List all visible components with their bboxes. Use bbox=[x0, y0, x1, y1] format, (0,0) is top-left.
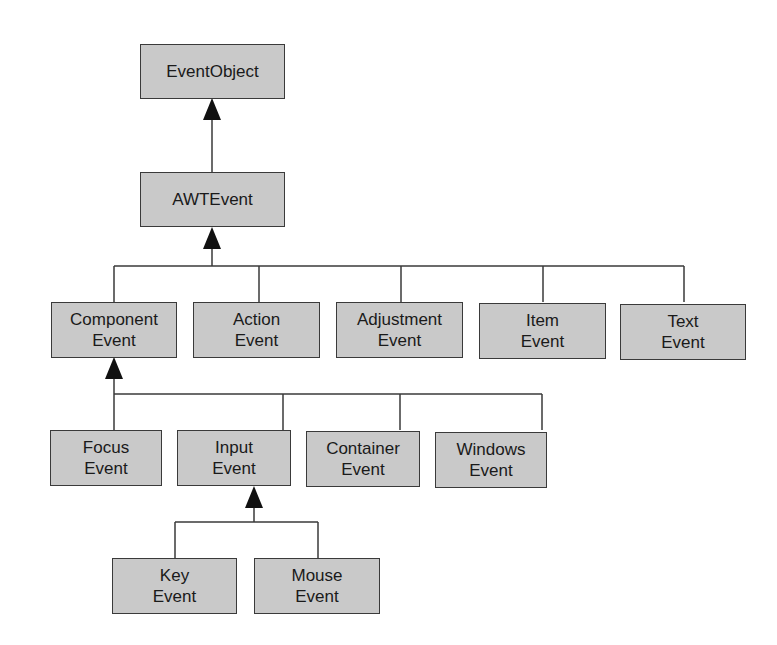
node-label-line1: Text bbox=[667, 311, 698, 332]
node-label-line2: Event bbox=[212, 458, 255, 479]
node-label-line1: Mouse bbox=[291, 565, 342, 586]
node-awt-event: AWTEvent bbox=[140, 172, 285, 227]
node-adjustment-event: Adjustment Event bbox=[336, 302, 463, 358]
node-label-line2: Event bbox=[295, 586, 338, 607]
node-label: AWTEvent bbox=[172, 189, 253, 210]
node-label: EventObject bbox=[166, 61, 259, 82]
node-label-line1: Focus bbox=[83, 437, 129, 458]
node-windows-event: Windows Event bbox=[435, 432, 547, 488]
node-input-event: Input Event bbox=[177, 430, 291, 486]
node-label-line2: Event bbox=[153, 586, 196, 607]
node-label-line1: Input bbox=[215, 437, 253, 458]
node-label-line2: Event bbox=[469, 460, 512, 481]
node-label-line1: Item bbox=[526, 310, 559, 331]
inheritance-arrow-icon bbox=[203, 227, 221, 249]
node-action-event: Action Event bbox=[193, 302, 320, 358]
node-label-line1: Windows bbox=[457, 439, 526, 460]
node-container-event: Container Event bbox=[306, 431, 420, 487]
node-label-line2: Event bbox=[378, 330, 421, 351]
node-label-line2: Event bbox=[661, 332, 704, 353]
node-label-line2: Event bbox=[84, 458, 127, 479]
node-label-line2: Event bbox=[341, 459, 384, 480]
node-label-line1: Adjustment bbox=[357, 309, 442, 330]
node-label-line2: Event bbox=[521, 331, 564, 352]
inheritance-arrow-icon bbox=[245, 486, 263, 508]
node-focus-event: Focus Event bbox=[50, 430, 162, 486]
node-component-event: Component Event bbox=[51, 302, 177, 358]
node-item-event: Item Event bbox=[479, 303, 606, 359]
node-label-line1: Component bbox=[70, 309, 158, 330]
inheritance-arrow-icon bbox=[203, 98, 221, 120]
inheritance-arrow-icon bbox=[105, 357, 123, 379]
node-label-line1: Key bbox=[160, 565, 189, 586]
node-key-event: Key Event bbox=[112, 558, 237, 614]
node-event-object: EventObject bbox=[140, 44, 285, 99]
node-label-line2: Event bbox=[235, 330, 278, 351]
event-class-hierarchy-diagram: EventObject AWTEvent Component Event Act… bbox=[0, 0, 777, 645]
node-label-line1: Container bbox=[326, 438, 400, 459]
node-text-event: Text Event bbox=[620, 304, 746, 360]
node-mouse-event: Mouse Event bbox=[254, 558, 380, 614]
node-label-line1: Action bbox=[233, 309, 280, 330]
node-label-line2: Event bbox=[92, 330, 135, 351]
